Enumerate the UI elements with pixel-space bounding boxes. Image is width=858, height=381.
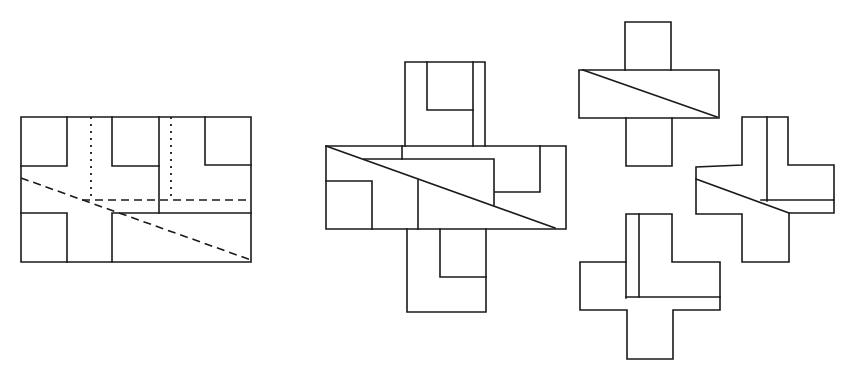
source-rectangle-solid-line xyxy=(112,117,159,166)
source-rectangle-dashed-line xyxy=(21,178,251,260)
small-cross-top-solid-line xyxy=(626,118,672,166)
small-cross-top-figure xyxy=(579,22,719,166)
source-rectangle-solid-line xyxy=(112,213,251,262)
small-cross-right-solid-line xyxy=(696,179,789,213)
small-cross-top-solid-line xyxy=(625,22,671,70)
large-cross-solid-line xyxy=(427,62,473,110)
small-cross-right-solid-line xyxy=(696,117,834,262)
dissection-diagram xyxy=(0,0,858,381)
large-cross-solid-line xyxy=(407,229,486,312)
large-cross-figure xyxy=(326,62,566,312)
source-rectangle-figure xyxy=(21,117,251,262)
large-cross-solid-line xyxy=(440,229,486,277)
small-cross-bottom-solid-line xyxy=(580,214,720,359)
small-cross-top-solid-line xyxy=(583,70,717,117)
source-rectangle-solid-line xyxy=(21,117,67,166)
source-rectangle-solid-line xyxy=(21,117,251,262)
small-cross-right-figure xyxy=(696,117,834,262)
small-cross-bottom-figure xyxy=(580,214,720,359)
large-cross-solid-line xyxy=(495,146,540,192)
large-cross-solid-line xyxy=(326,181,372,229)
source-rectangle-solid-line xyxy=(21,213,67,262)
source-rectangle-solid-line xyxy=(205,117,251,165)
